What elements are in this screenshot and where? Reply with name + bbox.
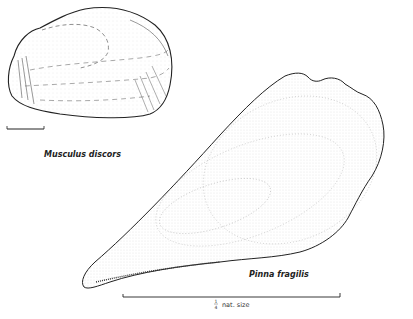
svg-text:4: 4 (215, 305, 218, 310)
label-musculus-discors: Musculus discors (44, 150, 121, 159)
svg-text:1: 1 (215, 299, 218, 304)
scale-fraction: 1 4 (214, 299, 218, 310)
scale-label-text: nat. size (222, 301, 249, 309)
shell-drawings: 1 4 (0, 0, 413, 319)
musculus-shell-drawing (8, 8, 171, 118)
illustration-plate: 1 4 Musculus discors Pinna fragilis nat.… (0, 0, 413, 319)
pinna-scale-bar (123, 293, 340, 297)
label-pinna-fragilis: Pinna fragilis (249, 270, 309, 279)
